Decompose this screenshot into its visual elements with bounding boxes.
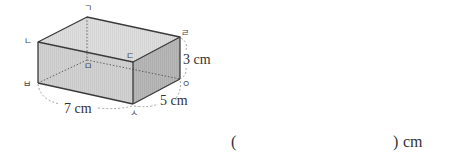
width-label: 5 cm [160,93,188,108]
rectangular-prism-figure: ㄱ ㄴ ㄷ ㄹ ㅁ ㅂ ㅅ ㅇ 3 cm 5 cm 7 cm [0,0,240,125]
height-arc-bottom [181,68,186,79]
vertex-label-giyeok: ㄱ [84,3,92,13]
vertex-label-bieup: ㅂ [23,79,31,89]
width-arc [134,104,158,107]
vertex-label-digeut: ㄷ [126,51,134,61]
vertex-label-rieul: ㄹ [181,28,189,38]
answer-close-paren: ) [393,133,398,151]
vertex-label-nieun: ㄴ [24,36,32,46]
vertex-label-siot: ㅅ [130,108,138,118]
answer-open-paren: ( [231,133,236,151]
height-label: 3 cm [183,52,211,67]
answer-unit: cm [403,133,423,151]
height-arc-top [181,38,186,50]
vertex-label-mieum: ㅁ [84,61,92,71]
length-label: 7 cm [64,101,92,116]
answer-row: ( ) cm [0,133,452,157]
vertex-label-ieung: ㅇ [182,79,190,89]
length-arc-right [98,106,132,109]
